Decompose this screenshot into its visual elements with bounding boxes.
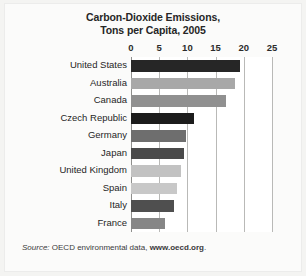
source-suffix: .	[204, 243, 206, 252]
bar-italy	[131, 200, 174, 212]
bar-row: France	[0, 215, 306, 233]
bar-row: Japan	[0, 145, 306, 163]
source-prefix: Source:	[22, 243, 50, 252]
category-label-united-kingdom: United Kingdom	[0, 164, 131, 175]
category-label-czech-republic: Czech Republic	[0, 112, 131, 123]
category-label-united-states: United States	[0, 59, 131, 70]
category-label-france: France	[0, 217, 131, 228]
chart-figure: Carbon-Dioxide Emissions, Tons per Capit…	[0, 0, 306, 276]
bar-row: United States	[0, 57, 306, 75]
bar-row: Australia	[0, 75, 306, 93]
x-tick-label-20: 20	[231, 42, 257, 53]
category-label-japan: Japan	[0, 147, 131, 158]
bar-row: Germany	[0, 127, 306, 145]
x-axis-tick-labels: 0510152025	[0, 42, 306, 56]
chart-title-line-2: Tons per Capita, 2005	[0, 24, 306, 37]
bar-france	[131, 218, 165, 230]
bar-row: Italy	[0, 197, 306, 215]
bar-czech-republic	[131, 113, 194, 125]
x-tick-label-0: 0	[118, 42, 144, 53]
bar-australia	[131, 78, 235, 90]
x-tick-label-25: 25	[259, 42, 285, 53]
category-label-germany: Germany	[0, 129, 131, 140]
x-tick-label-10: 10	[174, 42, 200, 53]
x-tick-label-5: 5	[146, 42, 172, 53]
category-label-australia: Australia	[0, 77, 131, 88]
x-tick-label-15: 15	[203, 42, 229, 53]
bar-germany	[131, 130, 186, 142]
bar-row: United Kingdom	[0, 162, 306, 180]
bar-row: Czech Republic	[0, 110, 306, 128]
chart-title-line-1: Carbon-Dioxide Emissions,	[86, 11, 220, 23]
bar-japan	[131, 148, 184, 160]
chart-title: Carbon-Dioxide Emissions, Tons per Capit…	[0, 11, 306, 36]
source-note: Source: OECD environmental data, www.oec…	[22, 243, 206, 252]
bar-row: Spain	[0, 180, 306, 198]
category-label-canada: Canada	[0, 94, 131, 105]
bar-united-kingdom	[131, 165, 181, 177]
bar-row: Canada	[0, 92, 306, 110]
source-url: www.oecd.org	[150, 243, 204, 252]
bar-united-states	[131, 60, 240, 72]
category-label-spain: Spain	[0, 182, 131, 193]
bar-canada	[131, 95, 226, 107]
category-label-italy: Italy	[0, 199, 131, 210]
bar-spain	[131, 183, 177, 195]
source-text: OECD environmental data,	[50, 243, 150, 252]
